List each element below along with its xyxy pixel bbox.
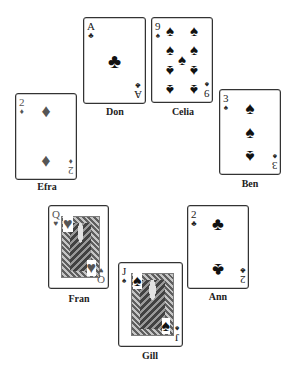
spade-icon: ♠ bbox=[245, 147, 254, 164]
club-icon: ♣ bbox=[240, 266, 245, 274]
player-label-don: Don bbox=[106, 106, 124, 117]
spade-icon: ♠ bbox=[190, 42, 198, 57]
club-icon: ♣ bbox=[108, 51, 121, 71]
heart-icon: ♥ bbox=[99, 266, 104, 274]
card-don[interactable]: A ♣ ♣ A ♣ bbox=[83, 17, 146, 104]
player-label-efra: Efra bbox=[37, 181, 56, 192]
card-corner-bottom: 2 ♦ bbox=[68, 157, 74, 176]
card-corner-bottom: J ♠ bbox=[175, 324, 179, 343]
card-ben[interactable]: 3 ♠ ♠ ♠ ♠ 3 ♠ bbox=[219, 89, 281, 175]
player-label-fran: Fran bbox=[68, 293, 89, 304]
heart-icon: ♥ bbox=[87, 260, 97, 276]
diamond-icon: ♦ bbox=[20, 108, 24, 116]
card-corner-top: Q ♥ bbox=[52, 209, 60, 228]
card-efra[interactable]: 2 ♦ ♦ ♦ 2 ♦ bbox=[15, 93, 77, 180]
spade-icon: ♠ bbox=[166, 24, 174, 39]
spade-icon: ♠ bbox=[178, 53, 186, 68]
spade-icon: ♠ bbox=[190, 24, 198, 39]
diamond-icon: ♦ bbox=[41, 102, 50, 120]
card-corner-bottom: 9 ♠ bbox=[204, 80, 210, 99]
card-rank: A bbox=[134, 89, 142, 100]
card-rank: 2 bbox=[68, 165, 74, 176]
spade-icon: ♠ bbox=[245, 124, 254, 141]
club-icon: ♣ bbox=[135, 81, 140, 89]
spade-icon: ♠ bbox=[166, 81, 174, 96]
card-corner-top: 2 ♣ bbox=[191, 209, 197, 228]
card-corner-top: J ♠ bbox=[122, 266, 126, 285]
card-corner-top: 2 ♦ bbox=[19, 97, 25, 116]
club-icon: ♣ bbox=[88, 32, 93, 40]
card-corner-bottom: Q ♥ bbox=[97, 266, 105, 285]
card-gill[interactable]: J ♠ ♠ ♠ J ♠ bbox=[118, 262, 183, 347]
diamond-icon: ♦ bbox=[41, 153, 50, 171]
card-corner-top: 3 ♠ bbox=[223, 93, 229, 112]
spade-icon: ♠ bbox=[190, 63, 198, 78]
spade-icon: ♠ bbox=[166, 63, 174, 78]
heart-icon: ♥ bbox=[54, 220, 59, 228]
spade-icon: ♠ bbox=[162, 318, 171, 334]
card-fran[interactable]: Q ♥ ♥ ♥ Q ♥ bbox=[48, 205, 109, 289]
card-corner-top: 9 ♠ bbox=[155, 21, 161, 40]
card-ann[interactable]: 2 ♣ ♣ ♣ 2 ♣ bbox=[187, 205, 249, 289]
heart-icon: ♥ bbox=[63, 216, 73, 232]
card-rank: Q bbox=[97, 274, 105, 285]
card-rank: 2 bbox=[240, 274, 246, 285]
spade-icon: ♠ bbox=[133, 273, 142, 289]
spade-icon: ♠ bbox=[224, 104, 228, 112]
card-rank: 3 bbox=[272, 160, 278, 171]
player-label-gill: Gill bbox=[142, 350, 158, 361]
spade-icon: ♠ bbox=[122, 277, 126, 285]
card-corner-bottom: 2 ♣ bbox=[240, 266, 246, 285]
card-corner-top: A ♣ bbox=[87, 21, 95, 40]
spade-icon: ♠ bbox=[175, 324, 179, 332]
player-label-ann: Ann bbox=[209, 291, 227, 302]
spade-icon: ♠ bbox=[204, 80, 208, 88]
spade-icon: ♠ bbox=[156, 32, 160, 40]
player-label-ben: Ben bbox=[242, 178, 259, 189]
diamond-icon: ♦ bbox=[68, 157, 72, 165]
card-rank: J bbox=[175, 332, 179, 343]
card-celia[interactable]: 9 ♠ ♠ ♠ ♠ ♠ ♠ ♠ ♠ ♠ ♠ 9 ♠ bbox=[151, 17, 213, 103]
club-icon: ♣ bbox=[212, 261, 224, 279]
card-rank: 9 bbox=[204, 88, 210, 99]
player-label-celia: Celia bbox=[172, 106, 194, 117]
spade-icon: ♠ bbox=[166, 42, 174, 57]
club-icon: ♣ bbox=[191, 220, 196, 228]
card-corner-bottom: A ♣ bbox=[134, 81, 142, 100]
spade-icon: ♠ bbox=[272, 152, 276, 160]
spade-icon: ♠ bbox=[190, 81, 198, 96]
spade-icon: ♠ bbox=[245, 100, 254, 117]
club-icon: ♣ bbox=[212, 215, 224, 233]
card-corner-bottom: 3 ♠ bbox=[272, 152, 278, 171]
